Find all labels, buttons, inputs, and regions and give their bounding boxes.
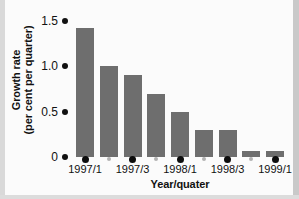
growth-rate-bar-chart: Growth rate (per cent per quarter) 1.5 1… bbox=[0, 0, 299, 199]
bar bbox=[124, 75, 142, 157]
y-axis-tick-dot-icon bbox=[62, 154, 68, 160]
x-axis-tick-label: 1999/1 bbox=[258, 163, 292, 175]
x-axis-minor-tick-dot-icon bbox=[107, 157, 111, 161]
x-axis-tick bbox=[219, 156, 237, 163]
y-axis-tick: 1.5 bbox=[28, 14, 68, 28]
y-axis-tick-label: 1.5 bbox=[41, 15, 58, 27]
x-axis-tick bbox=[100, 157, 118, 161]
x-axis-tick-label-slot: 1997/3 bbox=[124, 163, 142, 177]
bar bbox=[147, 94, 165, 157]
x-axis-tick-label-slot: 1998/1 bbox=[171, 163, 189, 177]
x-axis-tick-label-slot: 1999/1 bbox=[266, 163, 284, 177]
x-axis-tick-label-slot: 1997/1 bbox=[76, 163, 94, 177]
bar bbox=[76, 28, 94, 157]
x-axis-minor-tick-dot-icon bbox=[202, 157, 206, 161]
x-axis-tick bbox=[266, 156, 284, 163]
x-axis-tick bbox=[76, 156, 94, 163]
y-axis-tick: 1.0 bbox=[28, 59, 68, 73]
x-axis-tick-label: 1997/1 bbox=[68, 163, 102, 175]
x-axis-minor-tick-dot-icon bbox=[249, 157, 253, 161]
plot-area bbox=[76, 21, 284, 157]
x-axis-tick-label: 1998/1 bbox=[163, 163, 197, 175]
scan-edge-right bbox=[293, 0, 299, 199]
y-axis-tick: 0 bbox=[28, 150, 68, 164]
x-axis-tick bbox=[242, 157, 260, 161]
x-axis-tick-dot-icon bbox=[224, 156, 231, 163]
y-axis-tick-label: 0.5 bbox=[41, 106, 58, 118]
x-axis-tick bbox=[171, 156, 189, 163]
x-axis-tick-dot-icon bbox=[82, 156, 89, 163]
bar bbox=[171, 112, 189, 157]
x-axis-tick bbox=[124, 156, 142, 163]
x-axis-tick-label: 1998/3 bbox=[211, 163, 245, 175]
x-axis-minor-tick-dot-icon bbox=[154, 157, 158, 161]
x-axis-tick-labels: 1997/11997/31998/11998/31999/1 bbox=[76, 163, 284, 177]
x-axis-tick-label: 1997/3 bbox=[116, 163, 150, 175]
y-axis-tick-label: 1.0 bbox=[41, 60, 58, 72]
y-axis-tick-label: 0 bbox=[51, 151, 58, 163]
x-axis-tick-dot-icon bbox=[129, 156, 136, 163]
x-axis-title: Year/quater bbox=[76, 178, 284, 190]
scan-edge-bottom bbox=[0, 195, 299, 199]
x-axis-tick-dot-icon bbox=[272, 156, 279, 163]
y-axis-tick-dot-icon bbox=[62, 63, 68, 69]
bar-series bbox=[76, 21, 284, 157]
y-axis-tick-dot-icon bbox=[62, 18, 68, 24]
x-axis-tick-label-slot: 1998/3 bbox=[219, 163, 237, 177]
x-axis-tick-dot-icon bbox=[177, 156, 184, 163]
bar bbox=[100, 66, 118, 157]
x-axis-tick bbox=[147, 157, 165, 161]
x-axis-tick bbox=[195, 157, 213, 161]
scan-edge-left bbox=[0, 0, 5, 199]
y-axis-tick: 0.5 bbox=[28, 105, 68, 119]
y-axis-tick-dot-icon bbox=[62, 109, 68, 115]
